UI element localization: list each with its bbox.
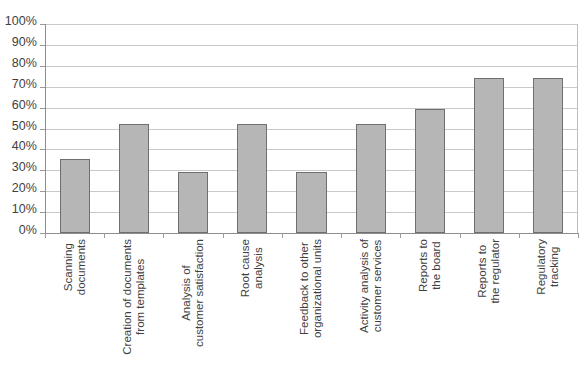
- x-axis-labels: ScanningdocumentsCreation of documentsfr…: [45, 239, 578, 365]
- x-axis-category-line: Reports to: [476, 239, 489, 304]
- x-axis-category-line: Creation of documents: [121, 239, 134, 355]
- x-axis-tick-mark: [341, 233, 342, 238]
- x-axis-category-label: Creation of documentsfrom templates: [104, 239, 163, 365]
- x-axis-category-text: Reports tothe board: [417, 239, 443, 292]
- x-axis-category-line: analysis: [252, 239, 265, 297]
- x-axis-category-line: Reports to: [417, 239, 430, 292]
- y-axis-tick-label: 60%: [12, 99, 37, 111]
- x-axis-category-label: Regulatorytracking: [519, 239, 578, 365]
- y-axis-tick-label: 0%: [19, 224, 37, 236]
- x-axis-category-line: customer satisfaction: [193, 239, 206, 347]
- x-axis-category-label: Activity analysis ofcustomer services: [341, 239, 400, 365]
- bars-layer: [45, 24, 578, 233]
- y-axis-tick-label: 80%: [12, 57, 37, 69]
- x-axis-category-text: Analysis ofcustomer satisfaction: [180, 239, 206, 347]
- x-axis-tick-mark: [163, 233, 164, 238]
- x-axis-category-line: customer services: [371, 239, 384, 333]
- x-axis-category-line: documents: [75, 239, 88, 295]
- y-axis-tick-label: 20%: [12, 182, 37, 194]
- x-axis-category-line: Analysis of: [180, 239, 193, 347]
- x-axis-category-text: Root causeanalysis: [239, 239, 265, 297]
- bar-chart: 0%10%20%30%40%50%60%70%80%90%100% Scanni…: [0, 0, 585, 365]
- y-axis-tick-label: 50%: [12, 120, 37, 132]
- x-axis-category-line: Regulatory: [535, 239, 548, 295]
- x-axis-category-line: Feedback to other: [298, 239, 311, 338]
- x-axis-tick-mark: [578, 233, 579, 238]
- x-axis-category-line: tracking: [548, 239, 561, 295]
- x-axis-category-label: Reports tothe board: [400, 239, 459, 365]
- x-axis-category-line: Activity analysis of: [358, 239, 371, 333]
- x-axis-category-line: Root cause: [239, 239, 252, 297]
- x-axis-category-text: Reports tothe regulator: [476, 239, 502, 304]
- x-axis-category-text: Activity analysis ofcustomer services: [358, 239, 384, 333]
- y-axis-tick-label: 30%: [12, 161, 37, 173]
- x-axis-category-label: Reports tothe regulator: [460, 239, 519, 365]
- x-axis-category-label: Scanningdocuments: [45, 239, 104, 365]
- bar: [296, 172, 326, 233]
- bar: [415, 109, 445, 233]
- x-axis-tick-mark: [460, 233, 461, 238]
- bar: [178, 172, 208, 233]
- y-axis-tick-label: 70%: [12, 78, 37, 90]
- x-axis-category-text: Creation of documentsfrom templates: [121, 239, 147, 355]
- bar: [119, 124, 149, 233]
- x-axis-tick-mark: [223, 233, 224, 238]
- x-axis-category-label: Feedback to otherorganizational units: [282, 239, 341, 365]
- bar: [533, 78, 563, 233]
- x-axis-category-line: Scanning: [62, 239, 75, 295]
- bar: [60, 159, 90, 233]
- x-axis-category-line: organizational units: [311, 239, 324, 338]
- x-axis-category-line: the board: [430, 239, 443, 292]
- x-axis-tick-mark: [45, 233, 46, 238]
- x-axis-category-line: from templates: [134, 239, 147, 355]
- x-axis-category-text: Scanningdocuments: [62, 239, 88, 295]
- y-axis-tick-label: 40%: [12, 140, 37, 152]
- y-axis-tick-label: 100%: [5, 15, 37, 27]
- x-axis-category-label: Analysis ofcustomer satisfaction: [163, 239, 222, 365]
- y-axis: 0%10%20%30%40%50%60%70%80%90%100%: [0, 0, 45, 365]
- x-axis-tick-mark: [400, 233, 401, 238]
- x-axis-tick-mark: [104, 233, 105, 238]
- x-axis-tick-mark: [519, 233, 520, 238]
- bar: [237, 124, 267, 233]
- bar: [356, 124, 386, 233]
- y-axis-tick-label: 90%: [12, 36, 37, 48]
- bar: [474, 78, 504, 233]
- x-axis-category-line: the regulator: [489, 239, 502, 304]
- x-axis-category-text: Feedback to otherorganizational units: [298, 239, 324, 338]
- y-axis-tick-label: 10%: [12, 203, 37, 215]
- x-axis-category-label: Root causeanalysis: [223, 239, 282, 365]
- x-axis-category-text: Regulatorytracking: [535, 239, 561, 295]
- x-axis-tick-mark: [282, 233, 283, 238]
